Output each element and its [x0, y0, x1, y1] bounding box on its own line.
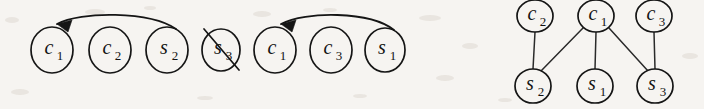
backward-arc-s2-to-c1	[57, 15, 176, 29]
node-subscript: 3	[659, 14, 666, 29]
scan-speck	[498, 98, 512, 102]
node-base-letter: c	[268, 36, 277, 58]
node-base-letter: c	[647, 2, 656, 24]
node-subscript: 1	[280, 48, 287, 63]
node-subscript: 3	[336, 48, 343, 63]
sequence-node-c3: c3	[310, 27, 352, 73]
scan-speck	[5, 17, 19, 23]
graph-clause-node-c3: c3	[636, 0, 672, 32]
node-subscript: 1	[57, 48, 64, 63]
scan-speck	[462, 43, 478, 49]
node-subscript: 2	[172, 48, 179, 63]
scan-speck	[11, 89, 29, 95]
sequence-node-s1: s1	[365, 28, 405, 72]
scan-speck	[197, 96, 213, 100]
node-base-letter: s	[378, 36, 386, 58]
graph-variable-node-s2: s2	[515, 69, 551, 103]
sequence-node-c1: c1	[31, 27, 73, 73]
scan-speck	[323, 8, 337, 12]
node-base-letter: s	[588, 72, 596, 94]
node-base-letter: c	[528, 2, 537, 24]
node-base-letter: s	[526, 72, 534, 94]
scan-speck	[682, 53, 698, 59]
scan-speck	[253, 11, 271, 17]
graph-variable-node-s1: s1	[577, 69, 613, 103]
bipartite-graph-panel: c2c1c3s2s1s3	[515, 0, 673, 103]
graph-clause-node-c2: c2	[517, 0, 553, 32]
graph-variable-node-s3: s3	[637, 69, 673, 103]
scan-speck	[353, 94, 367, 98]
figure-canvas: c1c2s2s3c1c3s1 c2c1c3s2s1s3	[0, 0, 704, 109]
node-subscript: 1	[601, 14, 608, 29]
node-subscript: 2	[540, 14, 547, 29]
scan-speck	[144, 6, 156, 10]
scan-speck	[419, 15, 441, 21]
sequence-node-c1: c1	[254, 27, 296, 73]
scan-speck	[436, 75, 454, 81]
node-base-letter: c	[103, 36, 112, 58]
sequence-node-c2: c2	[89, 27, 131, 73]
node-subscript: 1	[390, 48, 397, 63]
sequence-panel: c1c2s2s3c1c3s1	[31, 15, 405, 73]
scanned-figure: c1c2s2s3c1c3s1 c2c1c3s2s1s3	[0, 0, 704, 109]
edge-c3-s3	[654, 32, 655, 69]
node-base-letter: s	[160, 36, 168, 58]
node-subscript: 2	[538, 84, 545, 99]
node-base-letter: c	[589, 2, 598, 24]
node-base-letter: c	[324, 36, 333, 58]
node-base-letter: s	[648, 72, 656, 94]
edge-c2-s2	[533, 32, 535, 69]
node-subscript: 1	[600, 84, 607, 99]
edge-c1-s1	[595, 32, 596, 69]
graph-clause-node-c1: c1	[578, 0, 614, 32]
node-subscript: 3	[660, 84, 667, 99]
node-base-letter: c	[45, 36, 54, 58]
sequence-node-s2: s2	[146, 27, 188, 73]
edge-c1-s3	[609, 28, 648, 71]
node-subscript: 2	[115, 48, 122, 63]
edge-c1-s2	[541, 28, 583, 71]
